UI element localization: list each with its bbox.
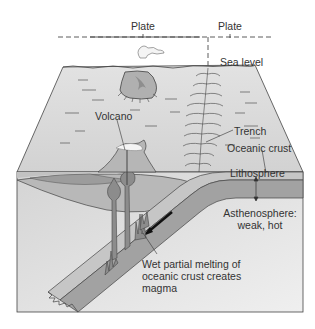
label-plate-left: Plate (131, 20, 155, 32)
label-plate-right: Plate (218, 20, 242, 32)
sea-surface (17, 65, 303, 172)
label-volcano: Volcano (95, 110, 132, 122)
label-melting-line3: magma (142, 282, 241, 294)
label-sea-level: Sea level (220, 56, 263, 68)
label-trench: Trench (234, 125, 266, 137)
label-oceanic-crust: Oceanic crust (227, 142, 291, 154)
label-melting-line2: oceanic crust creates (142, 270, 241, 282)
label-lithosphere: Lithosphere (230, 167, 285, 179)
label-asthenosphere: Asthenosphere: weak, hot (220, 207, 300, 231)
label-asthenosphere-line1: Asthenosphere: (220, 207, 300, 219)
label-wet-partial-melting: Wet partial melting of oceanic crust cre… (142, 258, 241, 294)
label-melting-line1: Wet partial melting of (142, 258, 241, 270)
label-asthenosphere-line2: weak, hot (220, 219, 300, 231)
